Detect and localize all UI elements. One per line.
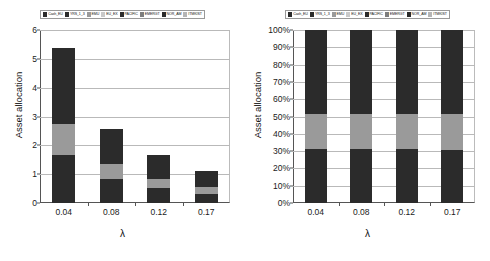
bar-segment — [195, 171, 218, 187]
x-tick-mark — [88, 203, 89, 206]
legend-item-label: EMERGT — [390, 12, 405, 17]
bar-segment — [396, 114, 418, 149]
y-tick-label: 0 — [32, 199, 40, 208]
legend-swatch-icon — [162, 12, 166, 17]
legend-swatch-icon — [65, 12, 69, 17]
x-tick-label: 0.17 — [444, 208, 461, 217]
figure-two-panel-bar-charts: Cash_EUYRS_1_3EMUEU_EXPACIFICEMERGTNOR_A… — [0, 0, 490, 261]
panel-absolute-allocation: Cash_EUYRS_1_3EMUEU_EXPACIFICEMERGTNOR_A… — [0, 0, 245, 261]
y-tick-label: 40% — [273, 129, 293, 138]
stacked-bar — [350, 30, 372, 203]
bar-slot — [384, 30, 430, 203]
legend-swatch-icon — [332, 12, 336, 17]
legend-item-label: YRS_1_3 — [70, 12, 85, 17]
y-tick-label: 60% — [273, 95, 293, 104]
legend-box: Cash_EUYRS_1_3EMUEU_EXPACIFICEMERGTNOR_A… — [285, 10, 450, 19]
bar-slot — [430, 30, 476, 203]
y-tick-label: 70% — [273, 77, 293, 86]
x-tick-mark — [384, 203, 385, 206]
legend-item: EMERGT — [385, 12, 405, 17]
bar-segment — [396, 30, 418, 114]
bar-slot — [40, 30, 88, 203]
legend-item: PACIFIC — [120, 12, 138, 17]
legend-item-label: PACIFIC — [370, 12, 383, 17]
legend-swatch-icon — [385, 12, 389, 17]
y-tick-label: 100% — [268, 26, 293, 35]
bar-segment — [100, 179, 123, 203]
bar-slot — [339, 30, 385, 203]
legend-item: ITMKIST — [428, 12, 446, 17]
legend-item: YRS_1_3 — [65, 12, 85, 17]
legend-item-label: ITMKIST — [433, 12, 446, 17]
legend-item-label: Cash_EU — [48, 12, 63, 17]
legend-item-label: EMU — [337, 12, 345, 17]
chart-legend-left: Cash_EUYRS_1_3EMUEU_EXPACIFICEMERGTNOR_A… — [0, 10, 245, 19]
bar-segment — [195, 194, 218, 204]
stacked-bar — [52, 48, 75, 203]
legend-item: NOR_AM — [162, 12, 182, 17]
legend-item-label: NOR_AM — [167, 12, 182, 17]
legend-item: EU_EX — [101, 12, 117, 17]
x-tick-mark — [430, 203, 431, 206]
bar-segment — [441, 150, 463, 203]
legend-box: Cash_EUYRS_1_3EMUEU_EXPACIFICEMERGTNOR_A… — [40, 10, 205, 19]
bar-series-container — [293, 30, 475, 203]
legend-item: EMU — [87, 12, 100, 17]
bar-segment — [305, 149, 327, 203]
y-tick-label: 1 — [32, 170, 40, 179]
y-tick-label: 6 — [32, 26, 40, 35]
y-axis-title: Asset allocation — [253, 50, 263, 160]
legend-swatch-icon — [288, 12, 292, 17]
legend-item-label: EU_EX — [351, 12, 362, 17]
bar-segment — [52, 124, 75, 156]
bar-segment — [147, 155, 170, 178]
x-tick-mark — [135, 203, 136, 206]
bar-series-container — [40, 30, 230, 203]
legend-item: Cash_EU — [43, 12, 63, 17]
plot-area-absolute: 0123456 0.040.080.120.17 — [40, 30, 230, 203]
stacked-bar — [441, 30, 463, 203]
x-tick-label: 0.08 — [353, 208, 370, 217]
y-tick-label: 20% — [273, 164, 293, 173]
bar-segment — [305, 114, 327, 149]
stacked-bar — [195, 171, 218, 203]
bar-slot — [88, 30, 136, 203]
y-tick-label: 4 — [32, 83, 40, 92]
legend-item: EU_EX — [346, 12, 362, 17]
plot-area-percentage: 0%10%20%30%40%50%60%70%80%90%100% 0.040.… — [293, 30, 475, 203]
x-tick-label: 0.08 — [103, 208, 120, 217]
x-axis-title: λ — [245, 228, 490, 239]
legend-item-label: YRS_1_3 — [315, 12, 330, 17]
x-tick-mark — [339, 203, 340, 206]
bar-segment — [147, 188, 170, 203]
bar-segment — [305, 30, 327, 114]
bar-segment — [52, 155, 75, 203]
bar-segment — [350, 30, 372, 114]
legend-item-label: Cash_EU — [293, 12, 308, 17]
legend-swatch-icon — [428, 12, 432, 17]
legend-item-label: NOR_AM — [412, 12, 427, 17]
x-tick-label: 0.04 — [307, 208, 324, 217]
y-tick-label: 3 — [32, 112, 40, 121]
legend-swatch-icon — [183, 12, 187, 17]
bar-segment — [350, 114, 372, 149]
x-tick-mark — [183, 203, 184, 206]
legend-item-label: EMERGT — [145, 12, 160, 17]
legend-swatch-icon — [101, 12, 105, 17]
legend-item-label: ITMKIST — [188, 12, 201, 17]
stacked-bar — [147, 155, 170, 203]
bar-slot — [183, 30, 231, 203]
legend-item: YRS_1_3 — [310, 12, 330, 17]
bar-segment — [396, 149, 418, 203]
bar-segment — [147, 179, 170, 188]
legend-item: PACIFIC — [365, 12, 383, 17]
bar-segment — [350, 149, 372, 203]
x-tick-label: 0.04 — [55, 208, 72, 217]
y-tick-label: 50% — [273, 112, 293, 121]
bar-segment — [100, 164, 123, 179]
stacked-bar — [396, 30, 418, 203]
x-tick-label: 0.12 — [398, 208, 415, 217]
legend-swatch-icon — [120, 12, 124, 17]
legend-item: EMERGT — [140, 12, 160, 17]
legend-item-label: EU_EX — [106, 12, 117, 17]
